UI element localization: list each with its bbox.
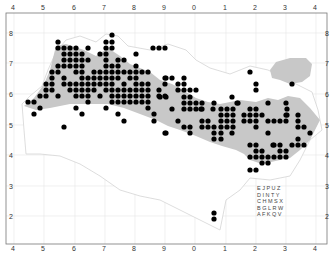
occurrence-dot	[31, 111, 36, 116]
occurrence-dot	[193, 87, 198, 92]
occurrence-dot	[133, 93, 138, 98]
occurrence-dot	[91, 81, 96, 86]
occurrence-dot	[109, 87, 114, 92]
top-axis-label: 9	[162, 4, 166, 11]
occurrence-dot	[25, 99, 30, 104]
left-axis-label: 5	[9, 122, 13, 129]
occurrence-dot	[61, 81, 66, 86]
left-axis-label: 3	[9, 183, 13, 190]
occurrence-dot	[289, 142, 294, 147]
occurrence-dot	[187, 94, 192, 99]
occurrence-dot	[211, 130, 216, 135]
occurrence-dot	[73, 69, 78, 74]
occurrence-dot	[224, 106, 229, 111]
occurrence-dot	[156, 45, 161, 50]
bottom-axis-label: 1	[223, 245, 227, 252]
occurrence-dot	[277, 118, 282, 123]
occurrence-dot	[193, 100, 198, 105]
occurrence-dot	[67, 87, 72, 92]
occurrence-dot	[55, 45, 60, 50]
occurrence-dot	[211, 124, 216, 129]
occurrence-dot	[43, 87, 48, 92]
occurrence-dot	[211, 210, 216, 215]
occurrence-dot	[283, 148, 288, 153]
occurrence-dot	[181, 100, 186, 105]
occurrence-dot	[115, 93, 120, 98]
bottom-axis-label: 4	[11, 245, 15, 252]
occurrence-dot	[133, 81, 138, 86]
occurrence-dot	[103, 63, 108, 68]
occurrence-dot	[145, 99, 150, 104]
occurrence-dot	[73, 87, 78, 92]
occurrence-dot	[115, 63, 120, 68]
occurrence-dot	[175, 87, 180, 92]
occurrence-dot	[157, 94, 162, 99]
occurrence-dot	[37, 105, 42, 110]
occurrence-dot	[295, 112, 300, 117]
occurrence-dot	[199, 118, 204, 123]
occurrence-dot	[253, 124, 258, 129]
occurrence-dot	[43, 93, 48, 98]
occurrence-dot	[277, 142, 282, 147]
occurrence-dot	[181, 75, 186, 80]
occurrence-dot	[247, 69, 252, 74]
occurrence-dot	[97, 81, 102, 86]
top-axis-label: 8	[132, 4, 136, 11]
occurrence-dot	[162, 81, 167, 86]
occurrence-dot	[85, 93, 90, 98]
occurrence-dot	[259, 148, 264, 153]
occurrence-dot	[79, 63, 84, 68]
occurrence-dot	[181, 106, 186, 111]
occurrence-dot	[115, 111, 120, 116]
occurrence-dot	[145, 105, 150, 110]
occurrence-dot	[115, 99, 120, 104]
occurrence-dot	[218, 136, 223, 141]
occurrence-dot	[109, 45, 114, 50]
occurrence-dot	[127, 99, 132, 104]
occurrence-dot	[79, 75, 84, 80]
occurrence-dot	[241, 118, 246, 123]
left-axis-label: 8	[9, 30, 13, 37]
occurrence-dot	[247, 167, 252, 172]
key-row: D I N T Y	[257, 192, 280, 198]
occurrence-dot	[265, 154, 270, 159]
occurrence-dot	[145, 87, 150, 92]
bottom-axis-label: 4	[313, 245, 317, 252]
occurrence-dot	[193, 106, 198, 111]
right-axis-label: 4	[325, 152, 329, 159]
occurrence-dot	[133, 99, 138, 104]
occurrence-dot	[61, 45, 66, 50]
occurrence-dot	[218, 112, 223, 117]
occurrence-dot	[109, 75, 114, 80]
occurrence-dot	[103, 81, 108, 86]
occurrence-dot	[283, 118, 288, 123]
occurrence-dot	[31, 99, 36, 104]
distribution-map: 456789012344567890123487654328765432 E J…	[0, 0, 333, 253]
occurrence-dot	[49, 87, 54, 92]
occurrence-dot	[301, 142, 306, 147]
occurrence-dot	[67, 45, 72, 50]
occurrence-dot	[230, 106, 235, 111]
occurrence-dot	[85, 45, 90, 50]
occurrence-dot	[85, 75, 90, 80]
occurrence-dot	[283, 154, 288, 159]
occurrence-dot	[115, 57, 120, 62]
occurrence-dot	[49, 69, 54, 74]
occurrence-dot	[127, 69, 132, 74]
occurrence-dot	[307, 130, 312, 135]
occurrence-dot	[265, 118, 270, 123]
occurrence-dot	[151, 111, 156, 116]
occurrence-dot	[109, 81, 114, 86]
occurrence-dot	[85, 99, 90, 104]
occurrence-dot	[55, 39, 60, 44]
occurrence-dot	[61, 75, 66, 80]
top-axis-label: 2	[253, 4, 257, 11]
occurrence-dot	[103, 51, 108, 56]
top-axis-label: 3	[283, 4, 287, 11]
occurrence-dot	[253, 112, 258, 117]
occurrence-dot	[198, 106, 203, 111]
occurrence-dot	[218, 124, 223, 129]
occurrence-dot	[121, 81, 126, 86]
occurrence-dot	[211, 136, 216, 141]
occurrence-dot	[55, 63, 60, 68]
